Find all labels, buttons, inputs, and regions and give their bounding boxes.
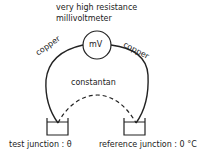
reference-junction-beaker	[124, 118, 145, 135]
constantan-label: constantan	[71, 78, 116, 87]
meter-title-line2: millivoltmeter	[56, 14, 112, 23]
test-junction-label: test junction : θ	[9, 140, 72, 149]
reference-junction-label: reference junction : 0 °C	[99, 140, 197, 149]
thermocouple-diagram: very high resistance millivoltmeter mV c…	[0, 0, 216, 157]
meter-title-line1: very high resistance	[56, 3, 137, 12]
test-junction-beaker	[47, 118, 68, 135]
meter-symbol-label: mV	[89, 40, 102, 49]
